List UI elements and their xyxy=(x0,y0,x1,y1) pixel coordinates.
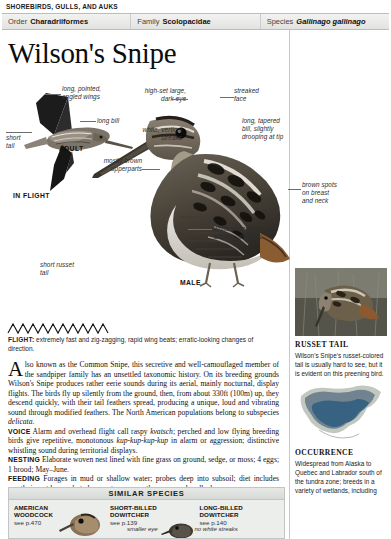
similar-species-name: LONG-BILLED DOWITCHER xyxy=(200,504,281,518)
callout-streaked-face: streakedface xyxy=(234,87,284,103)
drop-cap: A xyxy=(8,360,25,378)
list-item[interactable]: LONG-BILLED DOWITCHER see p.140 no white… xyxy=(195,500,285,539)
feeding-label: FEEDING xyxy=(8,475,40,482)
similar-species-list: AMERICANWOODCOCK see p.470 SHORT-BILLED … xyxy=(9,500,284,539)
similar-species-panel: SIMILAR SPECIES AMERICANWOODCOCK see p.4… xyxy=(8,487,285,539)
voice-text-a: Alarm and overhead flight call raspy xyxy=(30,427,150,436)
taxonomy-species-label: Species xyxy=(267,17,294,26)
callout-white-vertical-streaks: white, verticalstreaks xyxy=(120,126,182,142)
list-item[interactable]: SHORT-BILLED DOWITCHER see p.139 smaller… xyxy=(105,500,195,539)
side-column: RUSSET TAIL Wilson's Snipe's russet-colo… xyxy=(290,30,387,539)
callout-short-russet-tail: short russettail xyxy=(40,261,96,277)
similar-species-note: no white streaks xyxy=(195,526,238,532)
leader-line-wings xyxy=(45,94,61,95)
flight-path-diagram xyxy=(2,323,285,334)
male-snipe-illustration xyxy=(88,77,298,292)
voice-call-b: kup-kup-kup-kup xyxy=(117,436,168,445)
leader-line-short-tail xyxy=(6,132,32,133)
description-paragraph: Also known as the Common Snipe, this sec… xyxy=(8,360,279,427)
nesting-text: Elaborate woven nest lined with fine gra… xyxy=(8,455,279,474)
leader-line-face xyxy=(220,97,234,98)
flight-note: FLIGHT: extremely fast and zig-zagging, … xyxy=(2,336,285,353)
callout-short-tail: shorttail xyxy=(6,134,36,150)
russet-tail-photo xyxy=(295,268,387,336)
subspecies-name: delicata xyxy=(8,417,32,426)
list-item[interactable]: AMERICANWOODCOCK see p.470 xyxy=(9,500,105,539)
similar-species-note: smaller eye xyxy=(127,526,158,532)
illustration-plate: long, pointed,angled wings long bill sho… xyxy=(2,69,285,319)
taxonomy-family-label: Family xyxy=(137,17,159,26)
callout-high-set-large-dark-eye: high-set large,dark eye xyxy=(126,87,186,103)
voice-call-a: kvatsch xyxy=(150,427,173,436)
callout-white-underparts-with-barring: white underparts withbarring on flanks xyxy=(214,225,298,241)
running-head: SHOREBIRDS, GULLS, AND AUKS xyxy=(0,0,391,13)
leader-line-upperparts xyxy=(142,169,160,170)
taxonomy-order-value: Charadriiformes xyxy=(30,17,88,26)
description-period: . xyxy=(32,417,34,426)
taxonomy-bar: Order Charadriiformes Family Scolopacida… xyxy=(2,13,389,30)
species-description: Also known as the Common Snipe, this sec… xyxy=(2,360,285,493)
russet-tail-body: Wilson's Snipe's russet-colored tail is … xyxy=(295,351,387,378)
similar-species-name: SHORT-BILLED DOWITCHER xyxy=(110,504,191,518)
main-column: Wilson's Snipe xyxy=(2,30,290,539)
taxonomy-family-value: Scolopacidae xyxy=(162,17,210,26)
short-billed-dowitcher-thumbnail xyxy=(161,520,195,539)
field-guide-page: SHOREBIRDS, GULLS, AND AUKS Order Charad… xyxy=(0,0,391,539)
nesting-label: NESTING xyxy=(8,456,40,463)
occurrence-body: Widespread from Alaska to Quebec and Lab… xyxy=(295,459,387,495)
leader-line-eye xyxy=(172,99,188,100)
stage-label-adult: ADULT xyxy=(59,145,84,152)
stage-label-in-flight: IN FLIGHT xyxy=(13,192,50,199)
similar-species-heading: SIMILAR SPECIES xyxy=(9,488,284,500)
occurrence-map xyxy=(295,382,387,444)
description-body: lso known as the Common Snipe, this secr… xyxy=(8,360,279,417)
stage-label-male: MALE xyxy=(180,279,201,286)
flight-note-text: extremely fast and zig-zagging, rapid wi… xyxy=(8,336,253,352)
taxonomy-order: Order Charadriiformes xyxy=(2,14,131,29)
voice-label: VOICE xyxy=(8,428,30,435)
taxonomy-family: Family Scolopacidae xyxy=(131,14,260,29)
taxonomy-species: Species Gallinago gallinago xyxy=(261,14,389,29)
taxonomy-order-label: Order xyxy=(8,17,27,26)
russet-tail-heading: RUSSET TAIL xyxy=(295,340,387,349)
page-title: Wilson's Snipe xyxy=(8,37,285,69)
taxonomy-species-value: Gallinago gallinago xyxy=(296,17,365,26)
voice-paragraph: VOICE Alarm and overhead flight call ras… xyxy=(8,427,279,456)
occurrence-heading: OCCURRENCE xyxy=(295,448,387,457)
leader-line-underparts xyxy=(188,229,212,230)
nesting-paragraph: NESTING Elaborate woven nest lined with … xyxy=(8,455,279,474)
flight-note-label: FLIGHT: xyxy=(8,336,34,343)
callout-mostly-brown-upperparts: mostly brownupperparts xyxy=(76,157,142,173)
american-woodcock-thumbnail xyxy=(59,509,103,539)
